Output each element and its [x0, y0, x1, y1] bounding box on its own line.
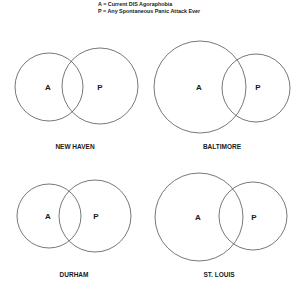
- label-p-st-louis: P: [251, 213, 257, 222]
- label-p-durham: P: [93, 212, 99, 221]
- label-a-durham: A: [45, 212, 51, 221]
- city-durham: DURHAM: [60, 271, 89, 278]
- venn-diagrams: A P NEW HAVEN A P BALTIMORE A P DURHAM A…: [0, 0, 304, 290]
- panel-baltimore: A P BALTIMORE: [154, 41, 290, 150]
- city-st-louis: ST. LOUIS: [203, 271, 235, 278]
- panel-durham: A P DURHAM: [17, 180, 131, 278]
- label-a-new-haven: A: [45, 83, 51, 92]
- label-a-baltimore: A: [196, 83, 202, 92]
- city-baltimore: BALTIMORE: [203, 143, 242, 150]
- label-p-baltimore: P: [255, 83, 261, 92]
- label-a-st-louis: A: [195, 213, 201, 222]
- label-p-new-haven: P: [97, 83, 103, 92]
- city-new-haven: NEW HAVEN: [55, 143, 95, 150]
- panel-new-haven: A P NEW HAVEN: [15, 48, 138, 150]
- panel-st-louis: A P ST. LOUIS: [155, 173, 287, 278]
